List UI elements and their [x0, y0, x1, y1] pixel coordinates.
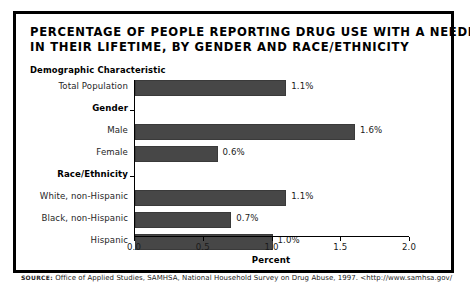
bar-row: Total Population1.1%	[134, 77, 409, 99]
x-axis-tick	[203, 237, 204, 241]
bar	[135, 146, 218, 162]
bar-row: Male1.6%	[134, 121, 409, 143]
category-label: White, non-Hispanic	[40, 191, 128, 201]
bar-value-label: 0.6%	[223, 147, 245, 157]
bar-row: Black, non-Hispanic0.7%	[134, 209, 409, 231]
y-axis-tick	[130, 110, 134, 111]
category-label: Male	[107, 125, 128, 135]
x-axis-title: Percent	[252, 255, 291, 265]
chart-frame: PERCENTAGE OF PEOPLE REPORTING DRUG USE …	[13, 11, 454, 273]
source-label: SOURCE:	[21, 274, 53, 281]
x-axis-tick	[272, 237, 273, 241]
group-header-label: Gender	[92, 103, 128, 113]
category-label: Hispanic	[91, 235, 128, 245]
x-axis-tick-label: 0.0	[127, 242, 141, 252]
bar	[135, 80, 286, 96]
bar-chart: Demographic Characteristic Total Populat…	[16, 14, 457, 270]
bar	[135, 212, 231, 228]
bar-value-label: 1.1%	[291, 81, 313, 91]
x-axis-tick-label: 1.5	[333, 242, 347, 252]
source-note: SOURCE: Office of Applied Studies, SAMHS…	[21, 274, 452, 282]
bar	[135, 124, 355, 140]
y-axis-title: Demographic Characteristic	[30, 65, 166, 75]
bar-value-label: 0.7%	[236, 213, 258, 223]
x-axis-tick	[409, 237, 410, 241]
source-text: Office of Applied Studies, SAMHSA, Natio…	[55, 274, 452, 282]
group-header-label: Race/Ethnicity	[57, 169, 128, 179]
category-label: Black, non-Hispanic	[42, 213, 128, 223]
category-label: Total Population	[58, 81, 128, 91]
plot-area: Total Population1.1%GenderMale1.6%Female…	[134, 80, 409, 236]
x-axis-tick-label: 1.0	[265, 242, 279, 252]
bar	[135, 190, 286, 206]
bar-row: Female0.6%	[134, 143, 409, 165]
x-axis-tick	[134, 237, 135, 241]
bar-value-label: 1.1%	[291, 191, 313, 201]
bar-value-label: 1.6%	[360, 125, 382, 135]
bar-row: White, non-Hispanic1.1%	[134, 187, 409, 209]
group-header-row: Gender	[134, 99, 409, 121]
x-axis-tick-label: 0.5	[196, 242, 210, 252]
y-axis-tick	[130, 176, 134, 177]
group-header-row: Race/Ethnicity	[134, 165, 409, 187]
x-axis-tick-label: 2.0	[402, 242, 416, 252]
category-label: Female	[96, 147, 128, 157]
x-axis-tick	[340, 237, 341, 241]
